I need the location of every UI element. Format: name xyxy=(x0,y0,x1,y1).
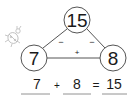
bottom-left-value: 7 xyxy=(29,48,40,69)
equation-operand1: 7 xyxy=(33,76,41,92)
left-edge-operator: − xyxy=(58,37,63,47)
right-edge-operator: − xyxy=(89,37,94,47)
bottom-right-value: 8 xyxy=(108,48,119,69)
equation: 7 + 8 = 15 xyxy=(21,76,127,94)
ladybug-icon xyxy=(5,26,21,47)
equation-result: 15 xyxy=(106,76,122,92)
equation-operator: + xyxy=(54,80,60,91)
top-value: 15 xyxy=(66,10,87,31)
number-bond-diagram: − − + 15 7 8 7 + 8 = 15 xyxy=(0,0,129,100)
bottom-edge-operator: + xyxy=(75,48,80,57)
equation-equals: = xyxy=(92,78,99,92)
equation-operand2: 8 xyxy=(73,76,81,92)
